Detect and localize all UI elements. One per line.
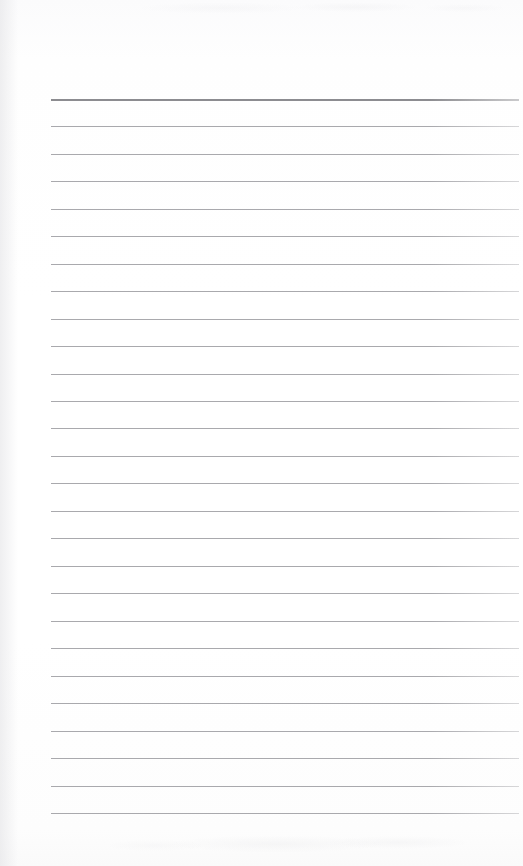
ruled-line <box>51 291 519 292</box>
ruled-line <box>51 538 519 539</box>
ruled-line <box>51 99 519 101</box>
ruled-line <box>51 154 519 155</box>
ruled-line <box>51 236 519 237</box>
ruled-line <box>51 126 519 127</box>
ruled-line <box>51 731 519 732</box>
ruled-line <box>51 428 519 429</box>
ruled-line <box>51 181 519 182</box>
ruled-line <box>51 813 519 814</box>
ruled-line <box>51 346 519 347</box>
ruled-lines-group <box>0 0 523 866</box>
ruled-line <box>51 374 519 375</box>
ruled-line <box>51 786 519 787</box>
ruled-line <box>51 566 519 567</box>
ruled-line <box>51 483 519 484</box>
ruled-line <box>51 401 519 402</box>
ruled-line <box>51 621 519 622</box>
ruled-line <box>51 319 519 320</box>
ruled-line <box>51 264 519 265</box>
ruled-line <box>51 456 519 457</box>
ruled-line <box>51 648 519 649</box>
ruled-line <box>51 209 519 210</box>
ruled-line <box>51 703 519 704</box>
ruled-line <box>51 511 519 512</box>
ruled-line <box>51 676 519 677</box>
scanned-page <box>0 0 523 866</box>
ruled-line <box>51 758 519 759</box>
ruled-line <box>51 593 519 594</box>
